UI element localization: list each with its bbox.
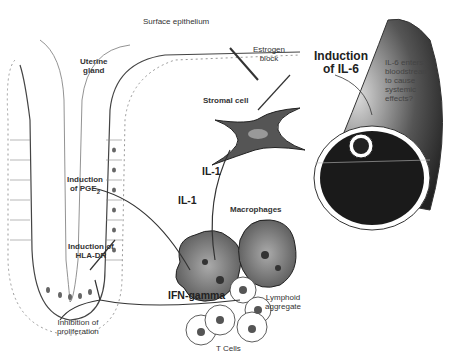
- label-il6-systemic: IL-6 enters bloodstream to cause systemi…: [385, 58, 429, 103]
- endometrium-cytokine-diagram: Surface epithelium Uterine gland Estroge…: [0, 0, 455, 364]
- label-lymphoid-aggregate: Lymphoid aggregate: [265, 293, 301, 311]
- pge2-subscript: 2: [97, 189, 100, 195]
- stromal-cell-shape: [212, 108, 305, 165]
- label-il1-upper: IL-1: [202, 167, 221, 176]
- label-induction-hladr: Induction of HLA-DR: [68, 242, 114, 260]
- label-induction-il6: Induction of IL-6: [314, 50, 368, 76]
- label-surface-epithelium: Surface epithelium: [143, 17, 209, 26]
- label-inhibition-proliferation: Inhibition of proliferation: [57, 318, 99, 336]
- label-stromal-cell: Stromal cell: [203, 96, 248, 105]
- label-estrogen-block: Estrogen block: [253, 45, 285, 63]
- label-uterine-gland: Uterine gland: [80, 57, 108, 75]
- label-induction-pge2: Induction of PGE2: [67, 175, 103, 197]
- il6-arrow: [258, 75, 290, 110]
- label-il1-lower: IL-1: [178, 196, 197, 205]
- label-t-cells: T Cells: [216, 344, 241, 353]
- label-ifn-gamma: IFN-gamma: [168, 291, 225, 300]
- label-macrophages: Macrophages: [230, 205, 282, 214]
